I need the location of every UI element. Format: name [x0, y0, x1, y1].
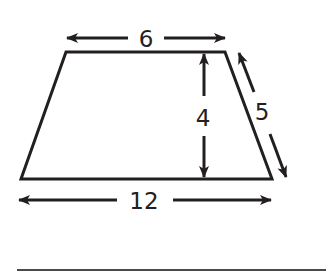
- slant-side-dimension: 5: [239, 53, 286, 177]
- slant-side-label: 5: [255, 99, 270, 125]
- slant-arrow-down: [270, 134, 286, 177]
- slant-arrow-up: [239, 53, 254, 92]
- top-base-dimension: 6: [67, 26, 225, 52]
- height-dimension: 4: [196, 54, 211, 177]
- top-base-label: 6: [139, 26, 154, 52]
- height-label: 4: [196, 105, 211, 131]
- trapezoid-shape: [21, 52, 272, 179]
- trapezoid-diagram: 6 4 5 12: [0, 0, 326, 277]
- bottom-base-label: 12: [129, 188, 158, 214]
- bottom-base-dimension: 12: [19, 188, 271, 214]
